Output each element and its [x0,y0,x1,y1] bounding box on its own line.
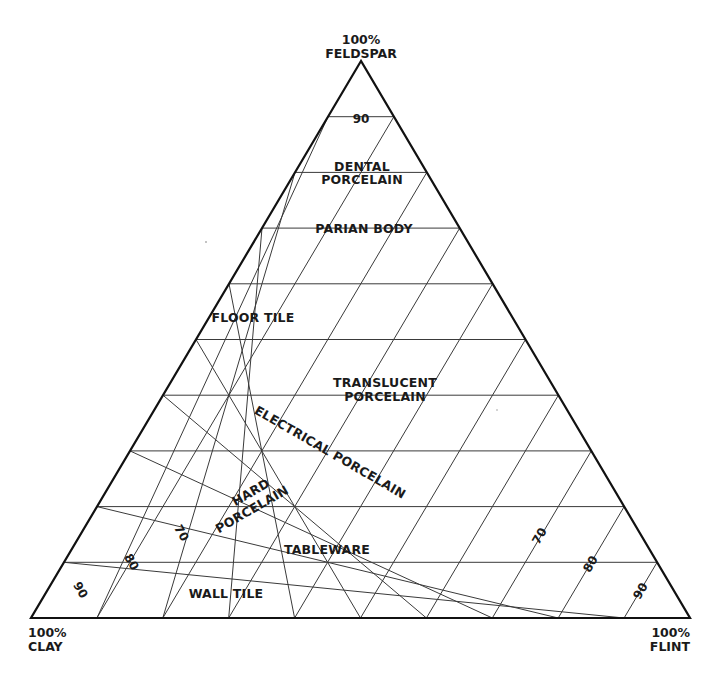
clay-name: CLAY [28,639,64,654]
grid-line-flint [229,228,460,618]
feldspar-percent: 100% [342,32,381,47]
region-wall-tile: WALL TILE [189,586,264,601]
tick-flint-70: 70 [529,525,549,546]
grid-line-clay [64,562,624,618]
speck [205,241,207,243]
region-tableware: TABLEWARE [284,542,370,557]
region-label-line: WALL TILE [189,586,264,601]
tick-flint-90: 90 [630,580,650,601]
vertex-label-clay: 100% CLAY [28,625,67,654]
tick-feldspar-90: 90 [353,112,370,126]
tick-flint-80: 80 [580,553,600,574]
region-dental-porcelain: DENTAL PORCELAIN [321,159,403,187]
flint-percent: 100% [651,625,690,640]
region-translucent-porcelain: TRANSLUCENT PORCELAIN [333,375,437,404]
tick-clay-90: 90 [70,579,90,600]
region-label-line: TABLEWARE [284,542,370,557]
speck [496,409,497,410]
vertex-label-flint: 100% FLINT [650,625,691,654]
ternary-diagram: 100% FELDSPAR 100% CLAY 100% FLINT 90 70… [0,0,715,677]
region-label-line: FLOOR TILE [212,310,295,325]
vertex-label-feldspar: 100% FELDSPAR [325,32,397,61]
region-hard-porcelain: HARD PORCELAIN [213,475,291,536]
region-label-line: PARIAN BODY [315,221,413,236]
flint-name: FLINT [650,639,691,654]
feldspar-name: FELDSPAR [325,46,397,61]
region-label-line: TRANSLUCENT [333,375,437,390]
region-label-line: PORCELAIN [321,172,403,187]
region-parian-body: PARIAN BODY [315,221,413,236]
region-label-line: PORCELAIN [344,389,426,404]
clay-percent: 100% [28,625,67,640]
region-floor-tile: FLOOR TILE [212,310,295,325]
